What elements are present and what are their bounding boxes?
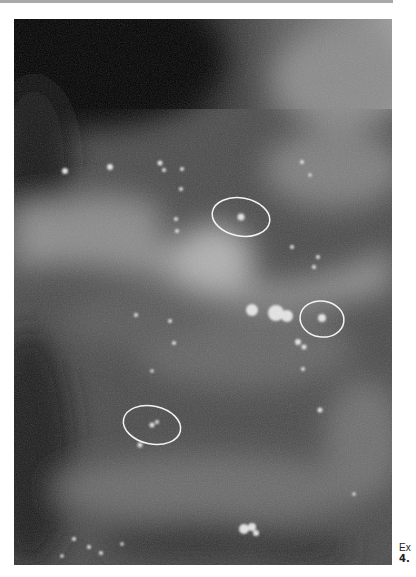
figure-caption: Ex 4. [399,542,416,564]
page-top-rule [0,0,393,3]
mammogram-image [14,19,392,565]
mammogram-figure [14,19,392,565]
caption-line-1: Ex [399,542,416,553]
caption-line-2: 4. [399,553,416,564]
